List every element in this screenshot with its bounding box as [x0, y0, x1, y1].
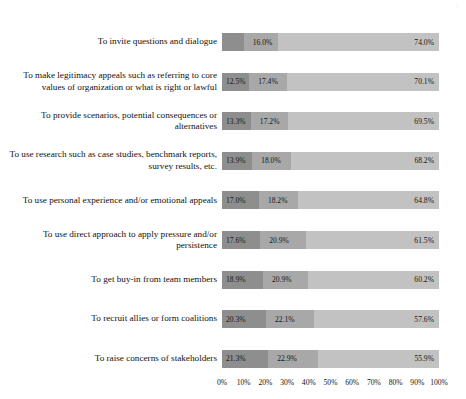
bar-segment-3[interactable]: 60.2% [308, 271, 439, 289]
stacked-bar[interactable]: 17.6%20.9%61.5% [222, 231, 439, 249]
bar-area: 13.9%18.0%68.2% [222, 141, 439, 181]
segment-value-label: 20.3% [226, 315, 246, 324]
segment-value-label: 18.0% [261, 156, 281, 165]
bar-area: 12.5%17.4%70.1% [222, 62, 439, 102]
x-axis-tick-label: 60% [345, 378, 359, 387]
bar-segment-1[interactable]: 13.3% [222, 112, 251, 130]
bar-area: 10.0%16.0%74.0% [222, 22, 439, 62]
chart-row: To provide scenarios, potential conseque… [0, 101, 466, 141]
chart-row: To raise concerns of stakeholders21.3%22… [0, 339, 466, 379]
bar-segment-1[interactable]: 12.5% [222, 73, 249, 91]
segment-value-label: 74.0% [414, 38, 434, 47]
bar-area: 17.6%20.9%61.5% [222, 220, 439, 260]
segment-value-label: 22.9% [277, 354, 297, 363]
stacked-bar[interactable]: 21.3%22.9%55.9% [222, 350, 439, 368]
chart-row: To get buy-in from team members18.9%20.9… [0, 260, 466, 300]
bar-segment-2[interactable]: 20.9% [263, 271, 308, 289]
x-axis-tick-label: 0% [217, 378, 227, 387]
bar-segment-1[interactable]: 21.3% [222, 350, 268, 368]
bar-segment-1[interactable]: 17.0% [222, 191, 259, 209]
segment-value-label: 69.5% [414, 117, 434, 126]
segment-value-label: 70.1% [414, 77, 434, 86]
bar-segment-1[interactable]: 18.9% [222, 271, 263, 289]
segment-value-label: 13.3% [226, 117, 246, 126]
x-axis-tick-label: 100% [430, 378, 448, 387]
category-label: To recruit allies or form coalitions [0, 313, 222, 324]
bar-segment-3[interactable]: 74.0% [278, 33, 439, 51]
bar-segment-2[interactable]: 18.0% [252, 152, 291, 170]
bar-segment-3[interactable]: 69.5% [288, 112, 439, 130]
category-label: To provide scenarios, potential conseque… [0, 110, 222, 133]
stacked-bar[interactable]: 10.0%16.0%74.0% [222, 33, 439, 51]
bar-area: 18.9%20.9%60.2% [222, 260, 439, 300]
segment-value-label: 64.8% [414, 196, 434, 205]
x-axis-tick-label: 10% [237, 378, 251, 387]
bar-segment-2[interactable]: 18.2% [259, 191, 298, 209]
segment-value-label: 22.1% [275, 315, 295, 324]
segment-value-label: 12.5% [226, 77, 246, 86]
x-axis-tick-label: 90% [410, 378, 424, 387]
stacked-bar[interactable]: 13.9%18.0%68.2% [222, 152, 439, 170]
chart-row: To recruit allies or form coalitions20.3… [0, 299, 466, 339]
category-label: To use personal experience and/or emotio… [0, 195, 222, 206]
bar-area: 21.3%22.9%55.9% [222, 339, 439, 379]
bar-segment-1[interactable]: 17.6% [222, 231, 260, 249]
bar-segment-3[interactable]: 68.2% [291, 152, 439, 170]
stacked-bar[interactable]: 12.5%17.4%70.1% [222, 73, 439, 91]
segment-value-label: 57.6% [414, 315, 434, 324]
stacked-bar[interactable]: 13.3%17.2%69.5% [222, 112, 439, 130]
chart-row: To use personal experience and/or emotio… [0, 180, 466, 220]
bar-segment-2[interactable]: 17.4% [249, 73, 287, 91]
bar-segment-2[interactable]: 20.9% [260, 231, 305, 249]
bar-segment-3[interactable]: 64.8% [298, 191, 439, 209]
bar-segment-2[interactable]: 22.1% [266, 310, 314, 328]
category-label: To invite questions and dialogue [0, 36, 222, 47]
segment-value-label: 21.3% [226, 354, 246, 363]
segment-value-label: 18.9% [226, 275, 246, 284]
bar-segment-3[interactable]: 61.5% [306, 231, 439, 249]
bar-segment-2[interactable]: 17.2% [251, 112, 288, 130]
bar-area: 13.3%17.2%69.5% [222, 101, 439, 141]
x-axis-tick-label: 70% [367, 378, 381, 387]
x-axis-tick-label: 80% [389, 378, 403, 387]
segment-value-label: 13.9% [226, 156, 246, 165]
chart-row: To make legitimacy appeals such as refer… [0, 62, 466, 102]
segment-value-label: 16.0% [253, 38, 273, 47]
bar-segment-1[interactable]: 13.9% [222, 152, 252, 170]
x-axis-tick-label: 20% [258, 378, 272, 387]
bar-segment-1[interactable]: 10.0% [222, 33, 244, 51]
segment-value-label: 60.2% [414, 275, 434, 284]
segment-value-label: 68.2% [414, 156, 434, 165]
bar-area: 20.3%22.1%57.6% [222, 299, 439, 339]
segment-value-label: 18.2% [268, 196, 288, 205]
segment-value-label: 55.9% [414, 354, 434, 363]
category-label: To get buy-in from team members [0, 274, 222, 285]
segment-value-label: 17.2% [260, 117, 280, 126]
stacked-bar[interactable]: 20.3%22.1%57.6% [222, 310, 439, 328]
stacked-bar-chart: To invite questions and dialogue10.0%16.… [0, 0, 466, 399]
bar-segment-2[interactable]: 16.0% [244, 33, 279, 51]
x-axis-tick-label: 40% [302, 378, 316, 387]
bar-segment-3[interactable]: 55.9% [318, 350, 439, 368]
segment-value-label: 17.6% [226, 236, 246, 245]
stacked-bar[interactable]: 17.0%18.2%64.8% [222, 191, 439, 209]
bar-area: 17.0%18.2%64.8% [222, 180, 439, 220]
chart-row: To invite questions and dialogue10.0%16.… [0, 22, 466, 62]
x-axis: 0%10%20%30%40%50%60%70%80%90%100% [222, 378, 439, 392]
x-axis-tick-label: 30% [280, 378, 294, 387]
category-label: To use research such as case studies, be… [0, 149, 222, 172]
segment-value-label: 17.4% [258, 77, 278, 86]
segment-value-label: 61.5% [414, 236, 434, 245]
bar-segment-2[interactable]: 22.9% [268, 350, 318, 368]
segment-value-label: 17.0% [226, 196, 246, 205]
segment-value-label: 20.9% [272, 275, 292, 284]
category-label: To make legitimacy appeals such as refer… [0, 70, 222, 93]
bar-segment-3[interactable]: 70.1% [287, 73, 439, 91]
stacked-bar[interactable]: 18.9%20.9%60.2% [222, 271, 439, 289]
chart-row: To use research such as case studies, be… [0, 141, 466, 181]
chart-row: To use direct approach to apply pressure… [0, 220, 466, 260]
segment-value-label: 20.9% [269, 236, 289, 245]
bar-segment-1[interactable]: 20.3% [222, 310, 266, 328]
x-axis-tick-label: 50% [324, 378, 338, 387]
bar-segment-3[interactable]: 57.6% [314, 310, 439, 328]
